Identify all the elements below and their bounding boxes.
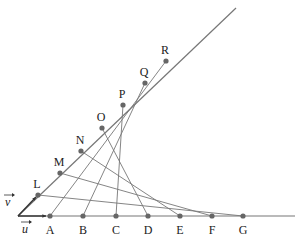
- label-c: C: [112, 223, 120, 237]
- point-a: [47, 213, 52, 218]
- label-m: M: [54, 155, 65, 169]
- point-b: [80, 213, 85, 218]
- label-n: N: [76, 133, 85, 147]
- point-l: [35, 192, 40, 197]
- point-p: [120, 102, 125, 107]
- diagram-canvas: uvABCDEFGLMNOPQR: [0, 0, 302, 243]
- v-vector-bar-arrow-icon: [12, 193, 15, 197]
- point-c: [113, 213, 118, 218]
- label-l: L: [33, 177, 40, 191]
- label-d: D: [144, 223, 153, 237]
- segment-od: [102, 128, 148, 216]
- label-a: A: [46, 223, 55, 237]
- u-vector-label: u: [22, 222, 28, 236]
- v-vector-label: v: [5, 195, 11, 209]
- u-arrowhead-icon: [42, 214, 46, 217]
- label-f: F: [209, 223, 216, 237]
- label-r: R: [161, 43, 169, 57]
- point-o: [99, 125, 104, 130]
- slant-line: [18, 8, 236, 216]
- label-g: G: [239, 223, 248, 237]
- segment-qb: [83, 83, 145, 216]
- label-b: B: [79, 223, 87, 237]
- u-vector-bar-arrow-icon: [29, 220, 32, 224]
- v-vector: [18, 197, 36, 216]
- point-m: [57, 170, 62, 175]
- label-q: Q: [140, 65, 149, 79]
- point-d: [145, 213, 150, 218]
- label-e: E: [176, 223, 183, 237]
- point-q: [142, 80, 147, 85]
- point-f: [209, 213, 214, 218]
- segment-lg: [38, 195, 243, 216]
- label-p: P: [119, 87, 126, 101]
- label-o: O: [97, 110, 106, 124]
- point-g: [240, 213, 245, 218]
- envelope-diagram: uvABCDEFGLMNOPQR: [0, 0, 302, 243]
- point-e: [177, 213, 182, 218]
- segment-mf: [60, 173, 212, 216]
- point-r: [163, 58, 168, 63]
- point-n: [78, 148, 83, 153]
- segment-ra: [50, 61, 166, 216]
